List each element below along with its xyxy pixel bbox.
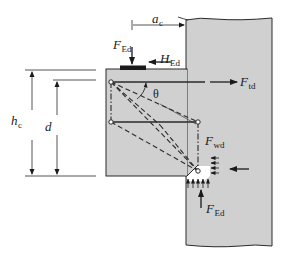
label-a-c: ac bbox=[152, 12, 163, 28]
bearing-plate bbox=[120, 66, 146, 71]
node-bottom bbox=[196, 169, 200, 173]
node-mid-right bbox=[196, 120, 200, 124]
label-f-td: Ftd bbox=[240, 75, 255, 91]
label-h-ed: HEd bbox=[160, 52, 180, 68]
label-f-wd: Fwd bbox=[205, 134, 224, 150]
diagram-canvas bbox=[0, 0, 289, 253]
label-f-ed-top: FEd bbox=[113, 38, 131, 54]
node-top-left bbox=[109, 80, 113, 84]
label-d: d bbox=[45, 120, 52, 133]
column bbox=[186, 18, 272, 247]
break-line bbox=[178, 17, 188, 20]
label-theta: θ bbox=[153, 88, 159, 100]
corbel-strut-tie-diagram: ac FEd HEd Ftd θ hc d Fwd FEd bbox=[0, 0, 289, 253]
label-h-c: hc bbox=[11, 114, 22, 130]
label-f-ed-bottom: FEd bbox=[206, 202, 224, 218]
node-mid-left bbox=[109, 120, 113, 124]
